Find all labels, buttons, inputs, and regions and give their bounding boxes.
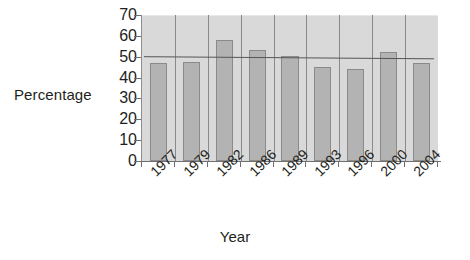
y-axis-tick-label: 40: [104, 70, 137, 86]
y-axis-tick-label: 0: [104, 153, 137, 169]
y-axis-tick-labels: 706050403020100: [104, 9, 137, 161]
y-axis-tick-label: 20: [104, 111, 137, 127]
y-axis-tick: [134, 98, 141, 99]
y-axis-tick: [134, 57, 141, 58]
bar-chart: Percentage 706050403020100 1977197919821…: [0, 0, 470, 260]
y-axis-tick-label: 60: [104, 28, 137, 44]
x-axis-tick-labels: 197719791982198619891993199620002004: [141, 168, 441, 216]
y-axis-tick: [134, 15, 141, 16]
y-axis-title: Percentage: [14, 86, 110, 103]
y-axis-tick-label: 50: [104, 49, 137, 65]
y-axis-tick: [134, 36, 141, 37]
y-axis-tick-label: 70: [104, 7, 137, 23]
trend-line: [142, 15, 438, 161]
x-axis-title: Year: [0, 228, 470, 245]
y-axis-tick-label: 30: [104, 90, 137, 106]
y-axis-tick: [134, 140, 141, 141]
plot-area: [141, 15, 438, 161]
y-axis-tick: [134, 119, 141, 120]
y-axis-tick-label: 10: [104, 132, 137, 148]
y-axis-tick: [134, 78, 141, 79]
